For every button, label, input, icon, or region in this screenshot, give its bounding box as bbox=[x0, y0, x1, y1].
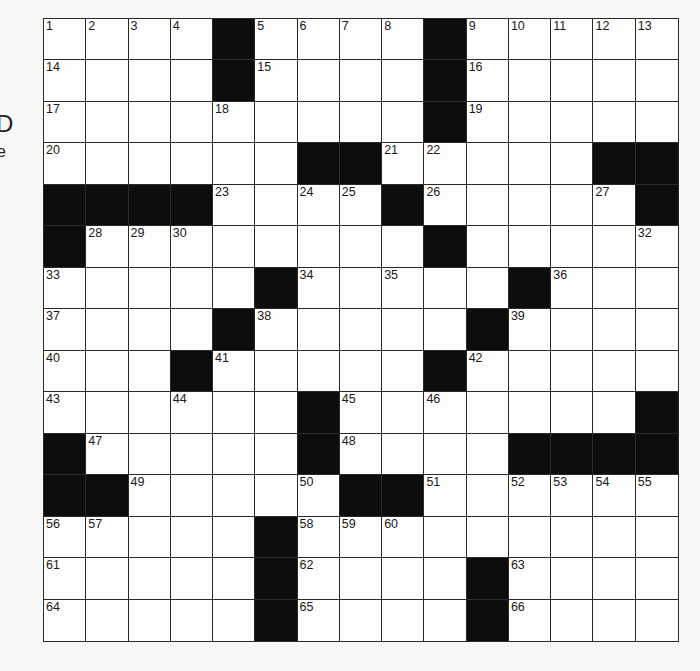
answer-square[interactable] bbox=[213, 143, 255, 184]
answer-square[interactable]: 58 bbox=[298, 517, 340, 558]
answer-square[interactable]: 55 bbox=[636, 475, 678, 516]
answer-square[interactable] bbox=[86, 351, 128, 392]
answer-square[interactable]: 19 bbox=[467, 102, 509, 143]
answer-square[interactable] bbox=[424, 268, 466, 309]
answer-square[interactable] bbox=[509, 60, 551, 101]
answer-square[interactable]: 53 bbox=[551, 475, 593, 516]
answer-square[interactable] bbox=[340, 351, 382, 392]
answer-square[interactable]: 14 bbox=[44, 60, 86, 101]
answer-square[interactable] bbox=[551, 309, 593, 350]
answer-square[interactable] bbox=[129, 600, 171, 641]
answer-square[interactable] bbox=[171, 475, 213, 516]
answer-square[interactable]: 33 bbox=[44, 268, 86, 309]
answer-square[interactable] bbox=[382, 392, 424, 433]
answer-square[interactable] bbox=[551, 517, 593, 558]
answer-square[interactable] bbox=[255, 143, 297, 184]
answer-square[interactable] bbox=[593, 102, 635, 143]
answer-square[interactable]: 48 bbox=[340, 434, 382, 475]
answer-square[interactable]: 45 bbox=[340, 392, 382, 433]
answer-square[interactable] bbox=[340, 60, 382, 101]
answer-square[interactable]: 24 bbox=[298, 185, 340, 226]
answer-square[interactable] bbox=[213, 226, 255, 267]
answer-square[interactable]: 7 bbox=[340, 19, 382, 60]
answer-square[interactable] bbox=[467, 517, 509, 558]
answer-square[interactable] bbox=[129, 309, 171, 350]
answer-square[interactable]: 60 bbox=[382, 517, 424, 558]
answer-square[interactable]: 39 bbox=[509, 309, 551, 350]
answer-square[interactable]: 36 bbox=[551, 268, 593, 309]
answer-square[interactable]: 9 bbox=[467, 19, 509, 60]
answer-square[interactable] bbox=[382, 434, 424, 475]
answer-square[interactable] bbox=[509, 185, 551, 226]
answer-square[interactable] bbox=[467, 268, 509, 309]
answer-square[interactable]: 23 bbox=[213, 185, 255, 226]
answer-square[interactable]: 12 bbox=[593, 19, 635, 60]
answer-square[interactable]: 6 bbox=[298, 19, 340, 60]
answer-square[interactable]: 40 bbox=[44, 351, 86, 392]
answer-square[interactable] bbox=[298, 102, 340, 143]
answer-square[interactable] bbox=[509, 392, 551, 433]
answer-square[interactable]: 11 bbox=[551, 19, 593, 60]
answer-square[interactable] bbox=[171, 558, 213, 599]
answer-square[interactable] bbox=[593, 226, 635, 267]
answer-square[interactable]: 34 bbox=[298, 268, 340, 309]
answer-square[interactable]: 16 bbox=[467, 60, 509, 101]
answer-square[interactable]: 30 bbox=[171, 226, 213, 267]
answer-square[interactable] bbox=[467, 392, 509, 433]
answer-square[interactable] bbox=[86, 392, 128, 433]
answer-square[interactable] bbox=[551, 600, 593, 641]
answer-square[interactable]: 38 bbox=[255, 309, 297, 350]
answer-square[interactable] bbox=[171, 143, 213, 184]
answer-square[interactable] bbox=[382, 226, 424, 267]
answer-square[interactable] bbox=[255, 102, 297, 143]
answer-square[interactable] bbox=[636, 268, 678, 309]
answer-square[interactable] bbox=[467, 185, 509, 226]
answer-square[interactable] bbox=[551, 558, 593, 599]
answer-square[interactable] bbox=[255, 351, 297, 392]
answer-square[interactable] bbox=[129, 392, 171, 433]
answer-square[interactable]: 62 bbox=[298, 558, 340, 599]
answer-square[interactable] bbox=[86, 60, 128, 101]
answer-square[interactable]: 17 bbox=[44, 102, 86, 143]
answer-square[interactable] bbox=[593, 309, 635, 350]
answer-square[interactable]: 41 bbox=[213, 351, 255, 392]
answer-square[interactable] bbox=[213, 517, 255, 558]
answer-square[interactable] bbox=[593, 600, 635, 641]
answer-square[interactable] bbox=[509, 351, 551, 392]
answer-square[interactable] bbox=[171, 268, 213, 309]
answer-square[interactable]: 28 bbox=[86, 226, 128, 267]
answer-square[interactable] bbox=[255, 475, 297, 516]
answer-square[interactable]: 8 bbox=[382, 19, 424, 60]
answer-square[interactable] bbox=[340, 268, 382, 309]
answer-square[interactable]: 18 bbox=[213, 102, 255, 143]
answer-square[interactable] bbox=[551, 185, 593, 226]
answer-square[interactable] bbox=[129, 558, 171, 599]
answer-square[interactable] bbox=[593, 268, 635, 309]
answer-square[interactable] bbox=[129, 351, 171, 392]
answer-square[interactable] bbox=[340, 226, 382, 267]
answer-square[interactable] bbox=[129, 434, 171, 475]
answer-square[interactable] bbox=[509, 102, 551, 143]
answer-square[interactable] bbox=[213, 434, 255, 475]
answer-square[interactable] bbox=[509, 143, 551, 184]
answer-square[interactable] bbox=[129, 60, 171, 101]
answer-square[interactable] bbox=[213, 558, 255, 599]
answer-square[interactable] bbox=[424, 517, 466, 558]
answer-square[interactable]: 50 bbox=[298, 475, 340, 516]
answer-square[interactable]: 29 bbox=[129, 226, 171, 267]
answer-square[interactable]: 37 bbox=[44, 309, 86, 350]
answer-square[interactable] bbox=[255, 226, 297, 267]
answer-square[interactable]: 21 bbox=[382, 143, 424, 184]
answer-square[interactable]: 63 bbox=[509, 558, 551, 599]
answer-square[interactable]: 2 bbox=[86, 19, 128, 60]
answer-square[interactable] bbox=[509, 517, 551, 558]
answer-square[interactable]: 49 bbox=[129, 475, 171, 516]
answer-square[interactable]: 42 bbox=[467, 351, 509, 392]
answer-square[interactable] bbox=[593, 60, 635, 101]
answer-square[interactable] bbox=[467, 475, 509, 516]
answer-square[interactable]: 4 bbox=[171, 19, 213, 60]
answer-square[interactable] bbox=[255, 392, 297, 433]
answer-square[interactable]: 59 bbox=[340, 517, 382, 558]
answer-square[interactable] bbox=[636, 60, 678, 101]
answer-square[interactable]: 25 bbox=[340, 185, 382, 226]
